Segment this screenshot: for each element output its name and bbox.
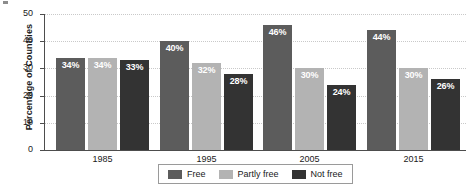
y-axis-line <box>44 14 45 151</box>
chart-container: Percentage of Countries 0102030405034%34… <box>0 0 475 192</box>
bar-value-label: 32% <box>192 65 221 75</box>
bar-value-label: 40% <box>160 43 189 53</box>
legend-item: Partly free <box>219 169 279 179</box>
bar-value-label: 30% <box>295 70 324 80</box>
x-axis-tick-label: 2005 <box>263 154 356 164</box>
bar-value-label: 26% <box>431 81 460 91</box>
y-axis-tick: 40 <box>40 41 44 42</box>
bar: 34% <box>56 58 85 150</box>
bar-group: 34%34%33%1985 <box>56 14 152 150</box>
bar: 26% <box>431 79 460 150</box>
bar: 28% <box>224 74 253 150</box>
x-axis-line <box>44 150 466 151</box>
bar: 46% <box>263 25 292 150</box>
bar-value-label: 44% <box>367 32 396 42</box>
y-axis-tick: 30 <box>40 68 44 69</box>
legend-label: Partly free <box>238 169 279 179</box>
legend-swatch-icon <box>292 170 306 179</box>
image-artifact-speck <box>3 1 8 4</box>
bar: 24% <box>327 85 356 150</box>
x-axis-tick-label: 1995 <box>160 154 253 164</box>
y-axis-tick-label: 40 <box>23 35 33 45</box>
bar-group: 46%30%24%2005 <box>263 14 359 150</box>
legend-label: Free <box>187 169 206 179</box>
bar-value-label: 34% <box>88 60 117 70</box>
legend-swatch-icon <box>168 170 182 179</box>
y-axis-tick: 0 <box>40 150 44 151</box>
y-axis-tick-label: 30 <box>23 62 33 72</box>
bar-value-label: 30% <box>399 70 428 80</box>
y-axis-tick: 50 <box>40 14 44 15</box>
bar: 40% <box>160 41 189 150</box>
legend-item: Not free <box>292 169 343 179</box>
y-axis-tick-label: 0 <box>28 144 33 154</box>
y-axis-tick-label: 20 <box>23 90 33 100</box>
y-axis-tick: 10 <box>40 123 44 124</box>
bar-value-label: 28% <box>224 76 253 86</box>
bar: 33% <box>120 60 149 150</box>
bar: 30% <box>295 68 324 150</box>
bar: 30% <box>399 68 428 150</box>
y-axis-tick: 20 <box>40 96 44 97</box>
bar-value-label: 24% <box>327 87 356 97</box>
bar-value-label: 34% <box>56 60 85 70</box>
bar-group: 44%30%26%2015 <box>367 14 463 150</box>
y-axis-tick-label: 10 <box>23 117 33 127</box>
legend-label: Not free <box>311 169 343 179</box>
bar-value-label: 33% <box>120 62 149 72</box>
x-axis-tick-label: 1985 <box>56 154 149 164</box>
legend-swatch-icon <box>219 170 233 179</box>
bar-value-label: 46% <box>263 27 292 37</box>
chart-legend: FreePartly freeNot free <box>158 164 353 184</box>
bar: 34% <box>88 58 117 150</box>
bar: 32% <box>192 63 221 150</box>
y-axis-title: Percentage of Countries <box>24 2 34 152</box>
legend-item: Free <box>168 169 206 179</box>
x-axis-tick-label: 2015 <box>367 154 460 164</box>
bar-group: 40%32%28%1995 <box>160 14 256 150</box>
plot-area: 0102030405034%34%33%198540%32%28%199546%… <box>44 14 466 151</box>
y-axis-tick-label: 50 <box>23 8 33 18</box>
bar: 44% <box>367 30 396 150</box>
